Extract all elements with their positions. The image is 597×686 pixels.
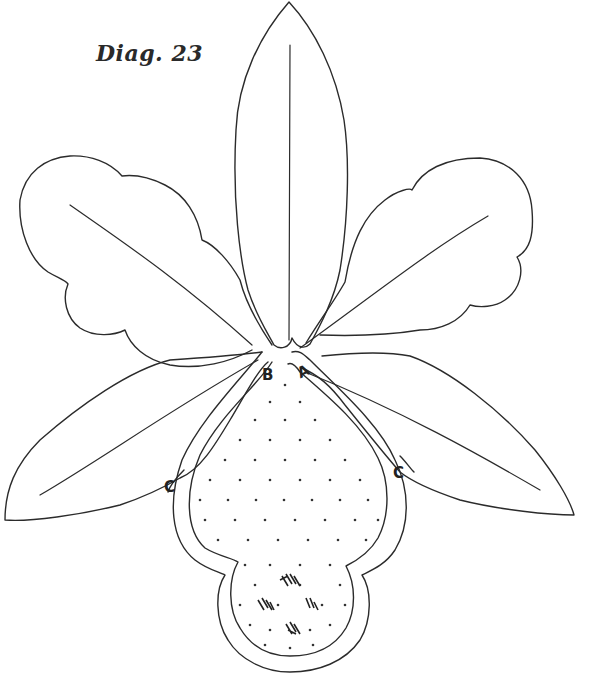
orchid-diagram: B A C C bbox=[0, 0, 597, 686]
dorsal-sepal bbox=[235, 2, 348, 348]
right-lateral-sepal bbox=[302, 353, 574, 515]
label-b: B bbox=[262, 366, 273, 384]
label-c-right: C bbox=[393, 464, 404, 482]
lip-markings bbox=[258, 574, 318, 634]
lip bbox=[173, 352, 406, 672]
left-lateral-sepal bbox=[5, 352, 268, 520]
label-c-left: C bbox=[164, 478, 175, 496]
c-loops bbox=[168, 456, 414, 492]
left-petal bbox=[20, 156, 272, 367]
right-petal bbox=[300, 158, 532, 348]
